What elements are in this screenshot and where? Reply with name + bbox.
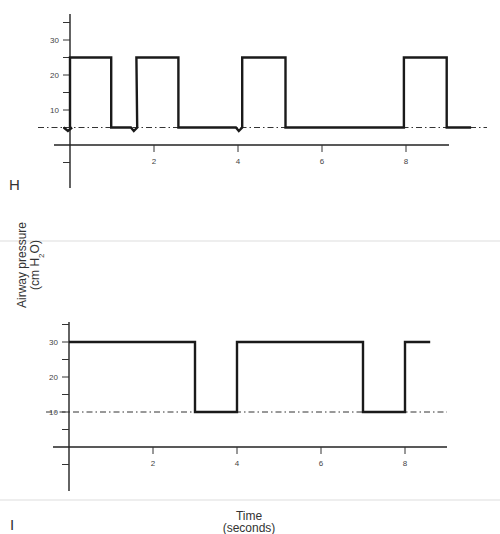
panel-h: 1020302468	[38, 14, 487, 188]
x-tick-label: 2	[152, 157, 157, 166]
pressure-waveform	[70, 58, 471, 132]
y-axis-title: Airway pressure (cm H2O)	[15, 222, 46, 308]
x-tick-label: 8	[404, 157, 409, 166]
y-tick-label: 30	[49, 338, 58, 347]
panel-label-h: H	[9, 176, 20, 193]
y-tick-label: 10	[49, 408, 58, 417]
panel-label-i: I	[10, 516, 14, 533]
x-tick-label: 6	[320, 157, 325, 166]
y-tick-label: 20	[50, 71, 59, 80]
x-axis-title-line2: (seconds)	[223, 521, 276, 534]
x-tick-label: 4	[235, 459, 240, 468]
y-axis-title-line2: (cm H2O)	[28, 240, 46, 290]
y-tick-label: 10	[50, 106, 59, 115]
x-tick-label: 4	[236, 157, 241, 166]
trigger-dip	[64, 128, 72, 132]
y-axis-title-line1: Airway pressure	[15, 222, 29, 308]
y-tick-label: 30	[50, 36, 59, 45]
x-tick-label: 6	[319, 459, 324, 468]
panel-i: 1020302468	[46, 322, 447, 491]
figure: 1020302468 H 1020302468 I Airway pressur…	[0, 0, 500, 534]
y-tick-label: 20	[49, 373, 58, 382]
x-tick-label: 8	[403, 459, 408, 468]
x-tick-label: 2	[151, 459, 156, 468]
pressure-waveform	[69, 342, 430, 412]
